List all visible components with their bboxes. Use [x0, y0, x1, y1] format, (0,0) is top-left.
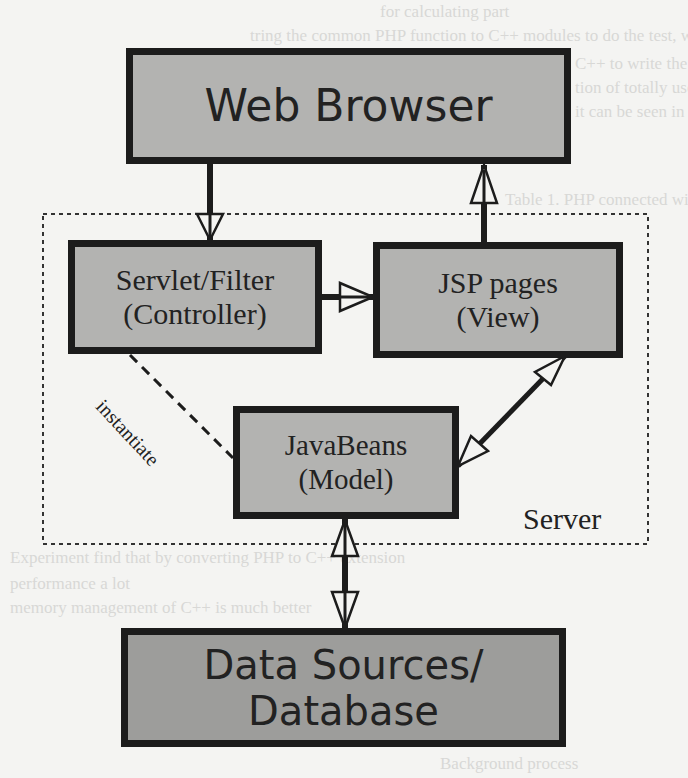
node-model-line2: (Model)	[298, 463, 393, 496]
node-model: JavaBeans (Model)	[233, 406, 459, 519]
node-controller: Servlet/Filter (Controller)	[68, 240, 322, 354]
node-controller-line2: (Controller)	[123, 297, 266, 332]
server-group-label: Server	[523, 502, 601, 536]
node-database-line1: Data Sources/	[204, 642, 484, 688]
node-database: Data Sources/ Database	[121, 628, 566, 747]
node-web-browser: Web Browser	[126, 48, 571, 164]
node-view: JSP pages (View)	[373, 242, 623, 358]
node-model-line1: JavaBeans	[285, 429, 407, 462]
arrow-view-to-browser	[471, 165, 497, 242]
arrow-browser-to-controller	[197, 163, 223, 240]
node-database-line2: Database	[248, 688, 439, 734]
node-view-line1: JSP pages	[438, 266, 558, 301]
node-web-browser-label: Web Browser	[204, 81, 492, 132]
node-view-line2: (View)	[456, 300, 539, 335]
arrow-view-model-bidirectional	[458, 356, 565, 466]
arrow-controller-to-view	[321, 283, 373, 311]
arrow-model-database-bidirectional	[332, 518, 358, 628]
node-controller-line1: Servlet/Filter	[116, 263, 274, 298]
